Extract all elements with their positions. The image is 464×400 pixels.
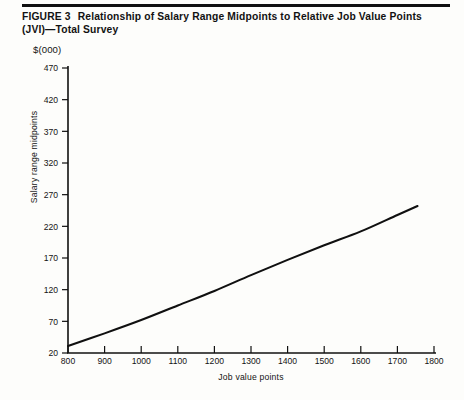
figure-page: FIGURE 3Relationship of Salary Range Mid… [0, 0, 464, 400]
x-axis-tick-label: 1700 [388, 356, 407, 366]
y-axis-tick-label: 370 [44, 127, 59, 137]
y-axis-tick-label: 120 [44, 285, 59, 295]
x-axis-tick-label: 1000 [132, 356, 151, 366]
y-axis-tick-group: 2070120170220270320370420470 [44, 63, 68, 358]
y-axis-tick-label: 20 [48, 348, 58, 358]
y-axis-tick-label: 320 [44, 158, 59, 168]
x-axis-tick-label: 800 [61, 356, 76, 366]
data-series-line [68, 206, 418, 346]
x-axis-tick-label: 1100 [169, 356, 188, 366]
x-axis-tick-label: 1300 [241, 356, 260, 366]
x-axis-tick-label: 1400 [278, 356, 297, 366]
x-axis-tick-label: 1200 [205, 356, 224, 366]
x-axis-tick-label: 1800 [424, 356, 443, 366]
x-axis-tick-label: 1500 [315, 356, 334, 366]
x-axis-tick-group: 8009001000110012001300140015001600170018… [61, 346, 444, 366]
y-axis-tick-label: 220 [44, 222, 59, 232]
line-chart-plot: 2070120170220270320370420470 80090010001… [0, 0, 464, 400]
y-axis-tick-label: 270 [44, 190, 59, 200]
x-axis-tick-label: 1600 [351, 356, 370, 366]
y-axis-tick-label: 470 [44, 63, 59, 73]
x-axis-tick-label: 900 [97, 356, 112, 366]
y-axis-tick-label: 70 [48, 317, 58, 327]
y-axis-tick-label: 170 [44, 253, 59, 263]
y-axis-tick-label: 420 [44, 95, 59, 105]
